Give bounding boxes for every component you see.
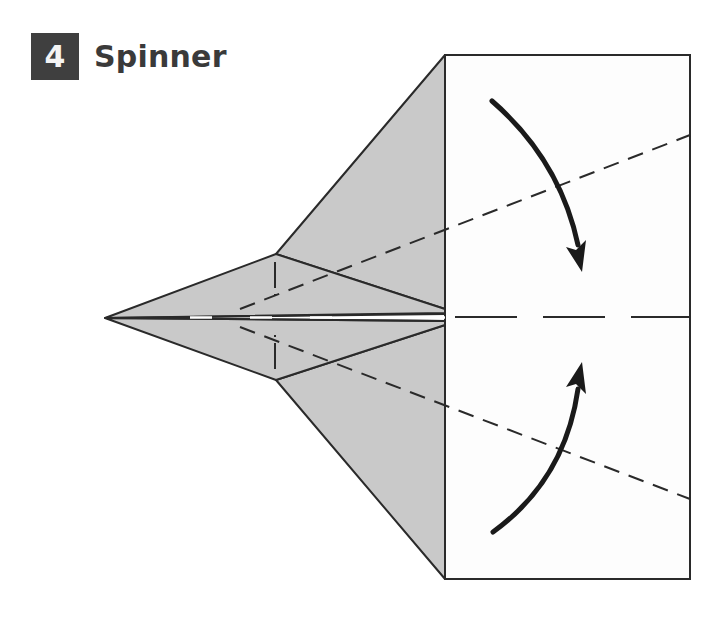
origami-diagram (0, 0, 728, 617)
